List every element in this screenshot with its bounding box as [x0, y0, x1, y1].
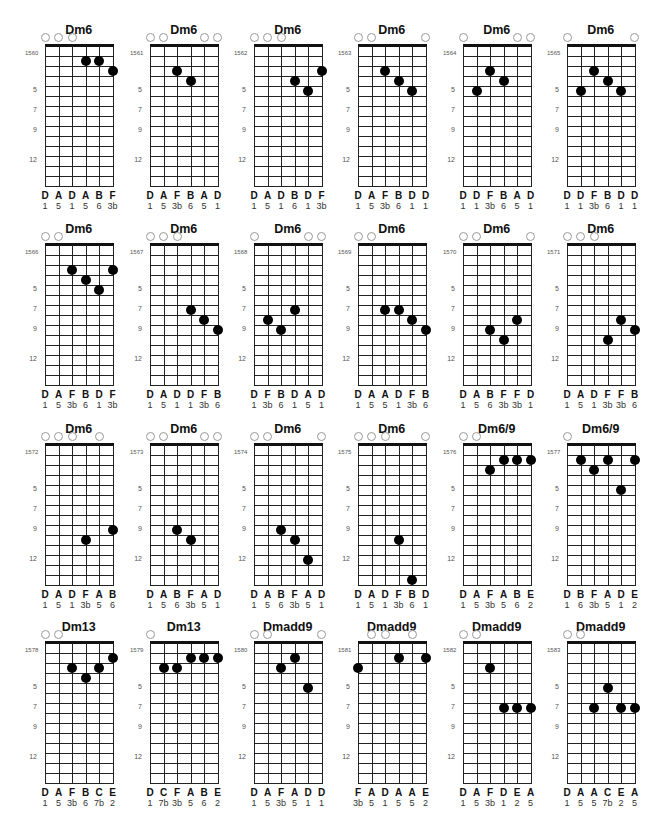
fret-line	[45, 663, 114, 664]
fret-line	[463, 703, 532, 704]
fret-line	[45, 753, 114, 754]
string-note-label: D	[211, 190, 225, 201]
interval-label: 3b	[315, 201, 329, 211]
string-note-label: D	[315, 589, 329, 600]
string-note-label: D	[92, 389, 106, 400]
fret-line	[45, 555, 114, 556]
finger-dot-icon	[213, 653, 223, 663]
fret-number-label: 5	[232, 485, 246, 492]
string-line	[295, 643, 296, 783]
string-note-label: B	[405, 589, 419, 600]
string-note-label: A	[52, 787, 66, 798]
open-string-icon	[146, 232, 155, 241]
string-note-label: B	[170, 589, 184, 600]
nut	[254, 641, 323, 644]
fret-line	[358, 585, 427, 586]
string-line	[164, 245, 165, 385]
string-note-label: D	[456, 389, 470, 400]
fret-line	[254, 683, 323, 684]
interval-label: 5	[628, 798, 642, 808]
fret-line	[463, 76, 532, 77]
string-note-label: D	[470, 190, 484, 201]
fret-line	[567, 305, 636, 306]
fret-line	[150, 773, 219, 774]
interval-label: 3b	[65, 400, 79, 410]
fret-line	[358, 66, 427, 67]
interval-label: 3b	[601, 400, 615, 410]
fret-line	[254, 653, 323, 654]
fret-line	[254, 713, 323, 714]
fret-line	[254, 525, 323, 526]
fret-line	[150, 295, 219, 296]
string-note-label: B	[392, 190, 406, 201]
string-note-label: D	[392, 389, 406, 400]
string-line	[113, 445, 114, 585]
fret-line	[45, 683, 114, 684]
fret-line	[254, 76, 323, 77]
fret-line	[463, 255, 532, 256]
finger-dot-icon	[172, 525, 182, 535]
fret-number-label: 12	[23, 753, 37, 760]
fret-number-label: 9	[23, 723, 37, 730]
string-line	[608, 445, 609, 585]
fret-line	[254, 186, 323, 187]
fret-number-label: 5	[441, 86, 455, 93]
fret-line	[567, 166, 636, 167]
fret-line	[358, 525, 427, 526]
interval-label: 1	[524, 201, 538, 211]
fret-line	[45, 525, 114, 526]
interval-label: 1	[378, 600, 392, 610]
fret-number-label: 5	[336, 485, 350, 492]
string-note-label: F	[261, 389, 275, 400]
interval-label: 6	[601, 201, 615, 211]
string-note-label: F	[510, 389, 524, 400]
fret-line	[150, 186, 219, 187]
string-line	[477, 46, 478, 186]
fret-line	[254, 275, 323, 276]
chord-number: 1571	[547, 249, 560, 255]
interval-label: 1	[143, 400, 157, 410]
string-line	[621, 445, 622, 585]
string-line	[399, 643, 400, 783]
interval-label: 6	[197, 798, 211, 808]
interval-label: 5	[92, 600, 106, 610]
fret-number-label: 12	[441, 156, 455, 163]
string-line	[635, 46, 636, 186]
fret-line	[358, 126, 427, 127]
string-note-label: F	[79, 589, 93, 600]
string-note-label: A	[470, 389, 484, 400]
interval-label: 1	[274, 201, 288, 211]
fret-number-label: 9	[232, 525, 246, 532]
fret-line	[358, 96, 427, 97]
string-line	[150, 245, 151, 385]
fret-line	[254, 465, 323, 466]
string-note-label: D	[456, 190, 470, 201]
string-line	[295, 245, 296, 385]
fret-line	[567, 555, 636, 556]
fret-line	[463, 126, 532, 127]
fret-line	[358, 116, 427, 117]
fret-line	[150, 465, 219, 466]
page-header-clipped	[200, 0, 450, 5]
string-note-label: D	[247, 589, 261, 600]
string-note-label: B	[574, 589, 588, 600]
string-line	[426, 643, 427, 783]
interval-label: 5	[52, 201, 66, 211]
interval-label: 5	[197, 600, 211, 610]
interval-label: 1	[38, 798, 52, 808]
string-note-label: A	[587, 787, 601, 798]
string-line	[218, 46, 219, 186]
open-string-icon	[381, 630, 390, 639]
finger-dot-icon	[81, 535, 91, 545]
fret-line	[567, 335, 636, 336]
fret-line	[45, 96, 114, 97]
open-string-icon	[200, 33, 209, 42]
fret-number-label: 7	[232, 106, 246, 113]
fret-number-label: 12	[336, 753, 350, 760]
fret-line	[150, 255, 219, 256]
chord-name: Dm6	[232, 422, 344, 436]
fret-line	[463, 475, 532, 476]
fret-line	[150, 753, 219, 754]
fret-line	[45, 66, 114, 67]
interval-label: 3b	[65, 798, 79, 808]
